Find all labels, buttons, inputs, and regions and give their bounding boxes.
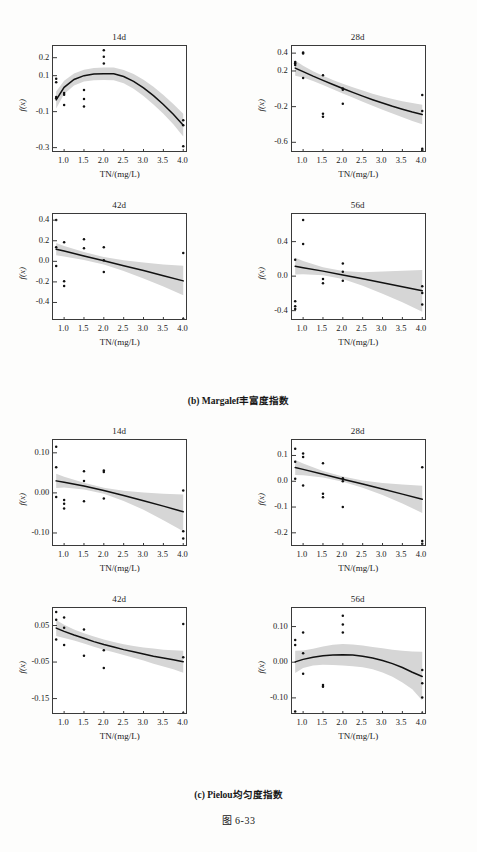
data-point [341,262,344,265]
data-point [83,98,86,101]
x-tick-label: 4.0 [416,323,427,333]
confidence-band [295,60,422,124]
data-point [421,285,424,288]
data-point [55,97,58,100]
x-tick-label: 2.0 [336,323,347,333]
data-point [341,615,344,618]
panel-c-14d: 14d f(x)0.100.00-0.101.01.52.02.53.03.54… [0,426,239,580]
data-point [294,639,297,642]
confidence-band [56,620,183,673]
x-tick-label: 3.5 [396,323,407,333]
x-axis-label: TN/(mg/L) [291,563,426,573]
data-point [103,649,106,652]
panel-title: 56d [239,594,477,605]
data-point [103,259,106,262]
data-point [63,104,66,107]
x-tick-label: 1.0 [297,155,308,165]
data-point [103,471,106,474]
data-point [302,672,305,675]
y-tick-label: -0.2 [274,527,287,537]
data-point [421,110,424,113]
y-tick-label: 0.1 [39,70,50,80]
fitted-curve [295,468,422,500]
x-tick-label: 2.5 [356,717,367,727]
x-tick-label: 2.5 [118,323,129,333]
chart-canvas [292,608,426,714]
x-tick-label: 1.0 [58,717,69,727]
data-point [341,623,344,626]
x-tick-label: 3.5 [157,323,168,333]
data-point [182,537,185,540]
x-tick-label: 1.0 [297,549,308,559]
data-point [55,611,58,614]
x-tick-label: 2.0 [98,155,109,165]
data-point [421,466,424,469]
x-axis-label: TN/(mg/L) [291,169,426,179]
x-tick-label: 4.0 [416,155,427,165]
x-tick-label: 2.0 [336,155,347,165]
x-tick-label: 4.0 [177,155,188,165]
data-point [421,696,424,699]
data-point [103,62,106,65]
figure-section-c: 14d f(x)0.100.00-0.101.01.52.02.53.03.54… [0,426,477,748]
panel-row-c-bottom: 42d f(x)0.05-0.05-0.151.01.52.02.53.03.5… [0,594,477,748]
plot-frame [52,45,187,152]
x-axis-label: TN/(mg/L) [52,563,187,573]
data-point [294,448,297,451]
data-point [321,113,324,116]
panel-title: 56d [239,200,477,211]
chart-canvas [53,440,187,546]
data-point [63,499,66,502]
x-axis-label: TN/(mg/L) [52,169,187,179]
data-point [341,88,344,91]
y-tick-label: 0.0 [277,270,288,280]
x-tick-label: 3.0 [376,323,387,333]
y-axis-label: f(x) [17,99,27,112]
panel-b-42d: 42d f(x)0.40.20.0-0.2-0.41.01.52.02.53.0… [0,200,239,354]
y-tick-label: -0.1 [36,106,49,116]
figure-section-b: 14d f(x)0.20.1-0.1-0.31.01.52.02.53.03.5… [0,32,477,354]
y-tick-label: 0.2 [277,65,288,75]
x-tick-label: 1.5 [78,323,89,333]
y-tick-label: -0.4 [36,296,49,306]
data-point [63,285,66,288]
x-axis-label: TN/(mg/L) [291,731,426,741]
x-tick-label: 1.0 [297,717,308,727]
y-tick-label: -0.4 [274,305,287,315]
x-tick-label: 3.5 [396,717,407,727]
data-point [321,74,324,77]
panel-title: 14d [0,32,239,43]
panel-row-b-bottom: 42d f(x)0.40.20.0-0.2-0.41.01.52.02.53.0… [0,200,477,354]
data-point [182,119,185,122]
section-caption-b: (b) Margalef丰富度指数 [0,393,477,407]
x-tick-label: 2.0 [98,549,109,559]
panel-c-42d: 42d f(x)0.05-0.05-0.151.01.52.02.53.03.5… [0,594,239,748]
data-point [83,480,86,483]
data-point [182,124,185,127]
plot-area: f(x)0.40.20.0-0.2-0.41.01.52.02.53.03.54… [0,213,238,354]
chart-canvas [53,46,187,152]
data-point [294,308,297,311]
y-tick-label: 0.00 [34,487,49,497]
data-point [83,500,86,503]
x-tick-label: 3.5 [157,717,168,727]
data-point [302,456,305,459]
data-point [63,502,66,505]
data-point [55,618,58,621]
data-point [302,77,305,80]
plot-frame [52,607,187,714]
x-tick-label: 2.5 [356,323,367,333]
data-point [302,243,305,246]
y-axis-label: f(x) [256,493,266,506]
y-tick-label: -0.2 [274,101,287,111]
x-tick-label: 3.0 [137,549,148,559]
data-point [341,506,344,509]
data-point [55,466,58,469]
plot-area: f(x)0.20.1-0.1-0.31.01.52.02.53.03.54.0T… [0,45,238,186]
data-point [55,638,58,641]
data-point [63,93,66,96]
data-point [182,145,185,148]
y-axis-label: f(x) [256,267,266,280]
data-point [182,623,185,626]
panel-c-28d: 28d f(x)0.10.0-0.1-0.21.01.52.02.53.03.5… [239,426,477,580]
